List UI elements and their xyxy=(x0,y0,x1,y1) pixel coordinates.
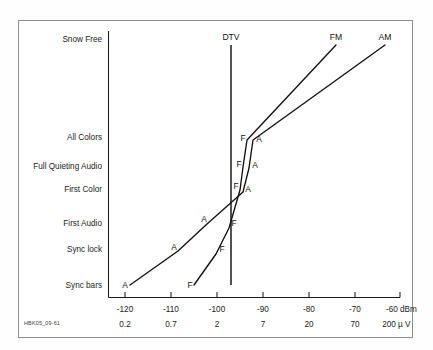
fm-point-markers: F F F F F F xyxy=(187,133,245,290)
x-axis-ticks xyxy=(125,292,400,298)
y-label-all-colors: All Colors xyxy=(67,133,102,142)
xtick-uv-4: 20 xyxy=(304,320,314,329)
xtick-uv-3: 7 xyxy=(261,320,266,329)
series-label-dtv: DTV xyxy=(222,32,239,42)
am-marker-sync-bars: A xyxy=(122,280,128,290)
series-label-am: AM xyxy=(379,32,392,42)
signal-quality-chart: Snow Free All Colors Full Quieting Audio… xyxy=(0,0,433,350)
xtick-dbm-3: -90 xyxy=(257,305,269,314)
x-axis-tick-labels-dbm: -120 -110 -100 -90 -80 -70 -60 dBm xyxy=(117,305,417,314)
xtick-dbm-0: -120 xyxy=(117,305,134,314)
series-fm: FM xyxy=(194,32,342,285)
y-label-first-audio: First Audio xyxy=(63,219,102,228)
xtick-uv-1: 0.7 xyxy=(165,320,177,329)
fm-marker-sync-lock: F xyxy=(219,244,224,254)
x-axis-tick-labels-uv: 0.2 0.7 2 7 20 70 200 µ V xyxy=(119,320,411,329)
fm-marker-all-colors: F xyxy=(240,133,245,143)
am-marker-sync-lock: A xyxy=(171,242,177,252)
xtick-dbm-6: -60 xyxy=(386,305,398,314)
x-axis-unit-uv: µ V xyxy=(398,320,411,329)
fm-curve-path xyxy=(194,45,336,285)
y-label-first-color: First Color xyxy=(64,185,102,194)
y-label-sync-bars: Sync bars xyxy=(66,281,102,290)
fm-marker-full-quieting-audio: F xyxy=(236,159,241,169)
xtick-uv-5: 70 xyxy=(350,320,360,329)
xtick-dbm-4: -80 xyxy=(303,305,315,314)
am-marker-full-quieting-audio: A xyxy=(252,160,258,170)
figure-caption-id: HBK05_09-61 xyxy=(24,320,60,326)
xtick-uv-0: 0.2 xyxy=(119,320,131,329)
series-am: AM xyxy=(130,32,391,285)
xtick-uv-6: 200 xyxy=(382,320,396,329)
y-label-sync-lock: Sync lock xyxy=(67,245,103,254)
am-marker-all-colors: A xyxy=(256,134,262,144)
xtick-dbm-5: -70 xyxy=(349,305,361,314)
am-marker-first-audio: A xyxy=(201,214,207,224)
y-label-full-quieting-audio: Full Quieting Audio xyxy=(33,162,102,171)
fm-marker-sync-bars: F xyxy=(187,280,192,290)
series-label-fm: FM xyxy=(330,32,342,42)
figure-container: Snow Free All Colors Full Quieting Audio… xyxy=(0,0,433,350)
fm-marker-first-color: F xyxy=(233,181,238,191)
xtick-uv-2: 2 xyxy=(215,320,220,329)
y-axis-labels: Snow Free All Colors Full Quieting Audio… xyxy=(33,35,103,290)
xtick-dbm-2: -100 xyxy=(209,305,226,314)
x-axis-unit-dbm: dBm xyxy=(400,305,417,314)
xtick-dbm-1: -110 xyxy=(163,305,179,314)
y-label-snow-free: Snow Free xyxy=(62,35,102,44)
fm-marker-first-audio: F xyxy=(231,218,236,228)
am-marker-first-color: A xyxy=(245,184,251,194)
am-point-markers: A A A A A A xyxy=(122,134,262,290)
